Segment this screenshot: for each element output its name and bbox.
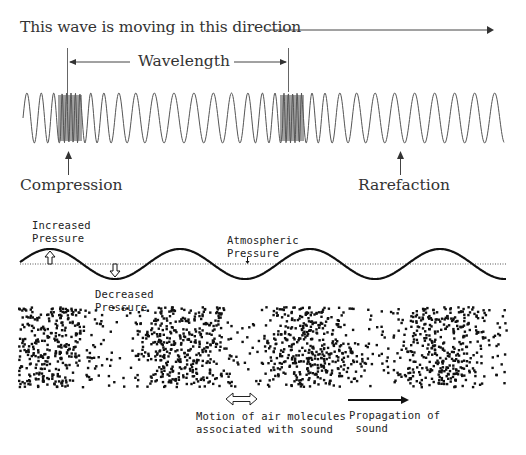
propagation-arrow-icon: [348, 396, 409, 404]
air-molecules: [18, 306, 508, 388]
molecule-motion-arrow-icon: [226, 393, 257, 405]
rarefaction-label: Rarefaction: [358, 176, 450, 194]
compression-label: Compression: [20, 176, 123, 194]
compression-wave: [23, 93, 504, 143]
decreased-pressure-arrow-icon: [110, 264, 120, 277]
rarefaction-arrow-icon: [397, 151, 404, 175]
molecule-motion-label: Motion of air molecules associated with …: [196, 410, 346, 436]
atmospheric-pressure-label: Atmospheric Pressure: [227, 234, 299, 260]
diagram-title: This wave is moving in this direction: [20, 18, 301, 36]
propagation-label: Propagation of sound: [349, 409, 440, 435]
wavelength-label: Wavelength: [134, 52, 234, 70]
compression-arrow-icon: [65, 151, 72, 175]
increased-pressure-label: Increased Pressure: [32, 219, 91, 245]
increased-pressure-arrow-icon: [45, 251, 55, 264]
decreased-pressure-label: Decreased Pressure: [95, 288, 154, 314]
